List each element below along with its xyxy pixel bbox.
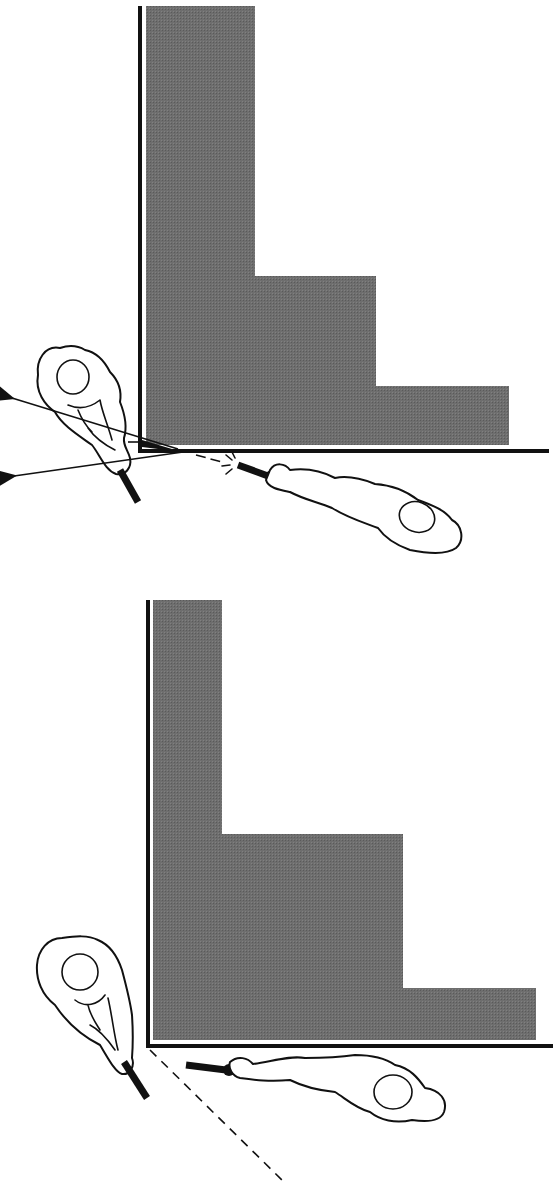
rifle-icon [238, 465, 268, 476]
rifle-icon [186, 1065, 226, 1070]
shot-trace-dashed [196, 455, 222, 462]
corner-clearing-diagram [0, 0, 557, 1200]
building-stepped [153, 600, 536, 1040]
muzzle-flash-icon [222, 452, 235, 474]
panel-bottom [37, 600, 553, 1184]
officer-right [196, 452, 461, 553]
rifle-icon [120, 470, 138, 502]
rifle-icon [124, 1062, 147, 1098]
officer-body-outline [266, 464, 461, 553]
officer-right [186, 1055, 445, 1122]
officer-body-outline [229, 1055, 445, 1122]
building-stepped [146, 6, 509, 445]
panel-top [12, 6, 549, 553]
officer-left [37, 936, 147, 1098]
